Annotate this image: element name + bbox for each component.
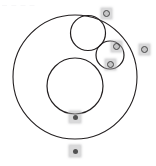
large-inner-circle: [47, 58, 103, 114]
marker-inner-right-glyph: [107, 61, 114, 68]
marker-bottom-center: [69, 111, 81, 123]
marker-bottom-center-glyph: [73, 115, 78, 120]
marker-right-edge: [139, 44, 150, 55]
marker-upper-right: [111, 41, 122, 52]
marker-top-glyph: [103, 10, 110, 17]
marker-bottom-outside-glyph: [73, 149, 78, 154]
diagram-canvas: — — — —: [0, 0, 156, 166]
marker-top: [101, 8, 112, 19]
marker-bottom-outside: [69, 145, 81, 157]
marker-upper-right-glyph: [113, 43, 120, 50]
circle-diagram: [0, 0, 156, 166]
marker-right-edge-glyph: [141, 46, 148, 53]
marker-inner-right: [105, 59, 116, 70]
